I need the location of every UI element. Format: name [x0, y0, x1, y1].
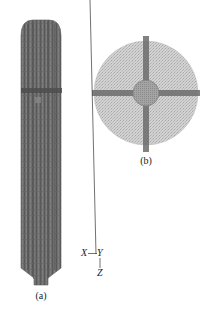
axis-z-label: Z: [97, 267, 103, 278]
column-side-view: [21, 20, 62, 285]
central-hub: [133, 80, 159, 106]
column-cross-section: [92, 36, 200, 152]
caption-panel-a: (a): [26, 290, 56, 301]
axis-triad: [88, 0, 100, 268]
distributor-band: [21, 88, 62, 93]
axis-y-label: Y: [97, 247, 103, 258]
axis-x-label: X: [81, 247, 87, 258]
caption-panel-b: (b): [131, 155, 161, 166]
figure-canvas: [0, 0, 211, 312]
